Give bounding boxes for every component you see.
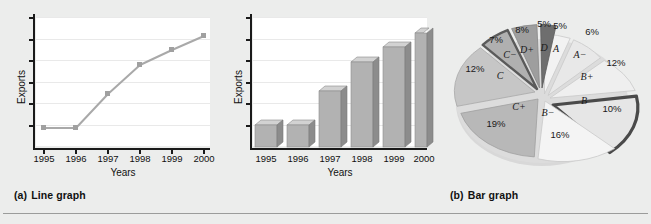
pie-percent-C-minus: 7% — [489, 34, 503, 45]
pie-percent-D: 5% — [537, 18, 551, 29]
panel-pie-chart: 5% 6% 12% 10% 16% 19% 12% 7% 8% 5% A A− … — [434, 0, 651, 224]
pie-label-C-plus: C+ — [512, 101, 525, 112]
line-x-axis-title: Years — [63, 167, 183, 178]
pie-label-B-plus: B+ — [581, 71, 594, 82]
bar-graph-plot: 1995 1996 1997 1998 1999 2000 Years Expo… — [217, 0, 434, 185]
bottom-divider — [3, 213, 648, 214]
pie-percent-B-minus: 16% — [550, 129, 570, 140]
pie-label-D-plus: D+ — [519, 44, 534, 55]
bar-1997 — [319, 86, 347, 147]
panel-bar-graph: 1995 1996 1997 1998 1999 2000 Years Expo… — [217, 0, 434, 224]
bar-1995 — [255, 120, 283, 147]
bar-1998 — [351, 57, 379, 147]
bar-x-axis-title: Years — [280, 167, 400, 178]
line-graph-plot: 1995 1996 1997 1998 1999 2000 Years Expo… — [0, 0, 217, 185]
pie-label-D: D — [539, 42, 548, 53]
line-y-axis-title: Exports — [16, 70, 27, 104]
pie-percent-A-minus: 6% — [585, 26, 599, 37]
bar-y-axis-title: Exports — [233, 70, 244, 104]
panel-line-graph: 1995 1996 1997 1998 1999 2000 Years Expo… — [0, 0, 217, 224]
pie-percent-B-plus: 12% — [606, 57, 626, 68]
bar-1999 — [383, 42, 411, 147]
pie-label-A-minus: A− — [573, 49, 587, 60]
bar-1996 — [287, 120, 315, 147]
caption-index: (a) — [14, 189, 27, 201]
caption-line-graph: (a)Line graph — [14, 189, 86, 201]
figure-three-chart-types: 1995 1996 1997 1998 1999 2000 Years Expo… — [0, 0, 651, 224]
caption-label: Line graph — [31, 189, 86, 201]
pie-percent-A: 5% — [553, 20, 567, 31]
pie-percent-C-plus: 19% — [486, 118, 506, 129]
pie-percent-C: 12% — [465, 63, 485, 74]
pie-percent-B: 10% — [602, 103, 622, 114]
pie-label-B: B — [581, 95, 587, 106]
pie-percent-D-plus: 8% — [515, 24, 529, 35]
pie-label-B-minus: B− — [542, 107, 555, 118]
pie-label-C: C — [497, 70, 504, 81]
pie-label-C-minus: C− — [503, 49, 516, 60]
pie-chart: 5% 6% 12% 10% 16% 19% 12% 7% 8% 5% A A− … — [434, 0, 651, 185]
pie-label-A: A — [552, 43, 560, 54]
bar-2000 — [415, 28, 433, 147]
